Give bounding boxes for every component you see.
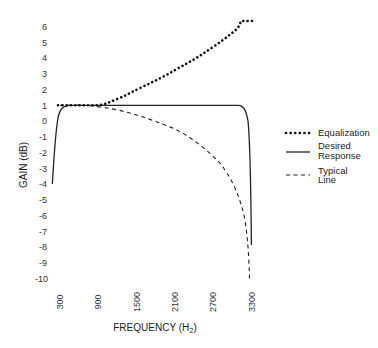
- y-tick: -10: [35, 274, 48, 284]
- chart-legend: Equalization Desired Response Typical Li…: [286, 127, 370, 185]
- equalization-line: [58, 21, 252, 105]
- gain-frequency-chart: GAIN (dB) 6 5 4 3 2 1 0 -1 -2 -3 -4 -5 -…: [0, 0, 378, 348]
- y-axis-ticks: 6 5 4 3 2 1 0 -1 -2 -3 -4 -5 -6 -7 -8 -9…: [35, 22, 48, 284]
- x-tick: 2700: [208, 292, 218, 312]
- legend-item-equalization: Equalization: [286, 127, 370, 138]
- x-axis-title-close: ): [193, 322, 196, 333]
- y-tick: -5: [39, 195, 47, 205]
- legend-item-typical-line: Typical Line: [286, 165, 348, 185]
- x-tick: 3300: [247, 292, 257, 312]
- y-tick: -2: [39, 148, 47, 158]
- y-tick: 1: [42, 101, 47, 111]
- y-axis-title: GAIN (dB): [18, 142, 29, 188]
- x-axis-title: FREQUENCY (H2): [113, 322, 196, 335]
- typical-line: [60, 105, 250, 278]
- x-tick: 900: [93, 294, 103, 309]
- y-tick: 4: [42, 53, 47, 63]
- legend-label: Response: [318, 150, 361, 161]
- x-axis-ticks: 300 900 1500 2100 2700 3300: [55, 292, 257, 312]
- x-tick: 2100: [170, 292, 180, 312]
- y-tick: 0: [42, 116, 47, 126]
- desired-response-line: [52, 105, 251, 245]
- y-tick: -9: [39, 258, 47, 268]
- x-tick: 300: [55, 294, 65, 309]
- y-tick: -8: [39, 242, 47, 252]
- y-tick: 3: [42, 69, 47, 79]
- y-tick: 5: [42, 38, 47, 48]
- legend-label: Line: [318, 174, 336, 185]
- y-tick: -6: [39, 211, 47, 221]
- y-tick: 6: [42, 22, 47, 32]
- y-tick: -7: [39, 227, 47, 237]
- y-tick: -3: [39, 164, 47, 174]
- y-tick: 2: [42, 85, 47, 95]
- x-axis-title-main: FREQUENCY (H: [113, 322, 189, 333]
- legend-item-desired-response: Desired Response: [286, 140, 361, 161]
- legend-label: Equalization: [318, 127, 370, 138]
- y-tick: -4: [39, 179, 47, 189]
- x-tick: 1500: [132, 292, 142, 312]
- y-tick: -1: [39, 132, 47, 142]
